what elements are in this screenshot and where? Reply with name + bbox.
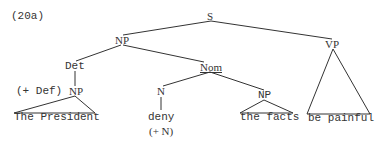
node-np-det: NP <box>69 86 83 97</box>
node-n: N <box>157 86 165 97</box>
example-label: (20a) <box>11 11 44 22</box>
leaf-the-president: The President <box>14 112 100 123</box>
edge-nom-n <box>163 72 210 86</box>
node-np-object: NP <box>258 90 271 101</box>
det-feature: (+ Def) <box>16 86 62 97</box>
edge-s-np <box>123 21 211 35</box>
node-vp: VP <box>325 39 339 50</box>
edge-s-vp <box>211 21 332 39</box>
edge-np-nom <box>123 45 204 62</box>
leaf-be-painful: be painful <box>308 113 374 124</box>
triangle-be-painful <box>307 49 370 114</box>
node-np-subject: NP <box>115 35 129 46</box>
node-det: Det <box>65 61 85 72</box>
edge-np-det <box>76 45 121 61</box>
edge-nom-np <box>210 72 264 90</box>
leaf-deny: deny <box>148 112 174 123</box>
leaf-the-facts: the facts <box>240 112 299 123</box>
node-s: S <box>207 11 213 22</box>
node-nom: Nom <box>200 62 222 73</box>
n-feature: (+ N) <box>149 126 173 137</box>
